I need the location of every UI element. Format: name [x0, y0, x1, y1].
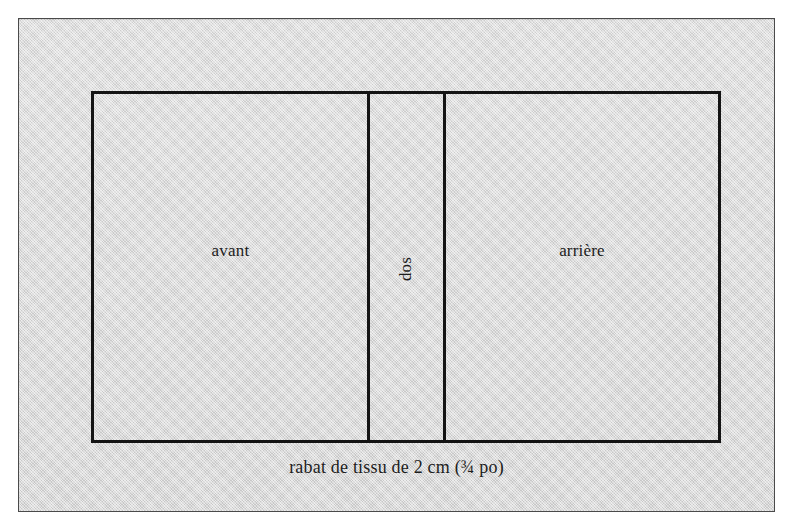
section-back: arrière: [446, 94, 718, 440]
cut-piece-rectangle: avant dos arrière: [91, 91, 721, 443]
section-spine-label: dos: [397, 257, 417, 281]
section-front-label: avant: [212, 241, 250, 261]
fabric-panel: avant dos arrière rabat de tissu de 2 cm…: [18, 18, 775, 512]
section-front: avant: [94, 94, 367, 440]
seam-allowance-caption: rabat de tissu de 2 cm (¾ po): [19, 457, 774, 478]
diagram-canvas: avant dos arrière rabat de tissu de 2 cm…: [0, 0, 793, 530]
section-spine: dos: [367, 94, 446, 440]
section-back-label: arrière: [559, 241, 605, 261]
